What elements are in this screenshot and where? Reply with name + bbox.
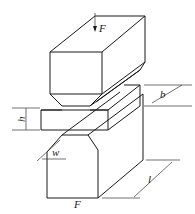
- w-label: w: [52, 146, 60, 158]
- l-label: l: [148, 173, 151, 185]
- h-label: h: [15, 116, 27, 122]
- dimension-b: b: [144, 85, 192, 106]
- lower-die: [47, 92, 143, 198]
- dimension-h: h: [12, 108, 40, 130]
- force-top-label: F: [98, 22, 106, 34]
- dimension-w: w: [37, 140, 66, 161]
- b-label: b: [160, 88, 166, 100]
- test-diagram: F F h b w l: [0, 0, 195, 214]
- force-bottom-label: F: [73, 198, 81, 210]
- dimension-l: l: [102, 160, 180, 198]
